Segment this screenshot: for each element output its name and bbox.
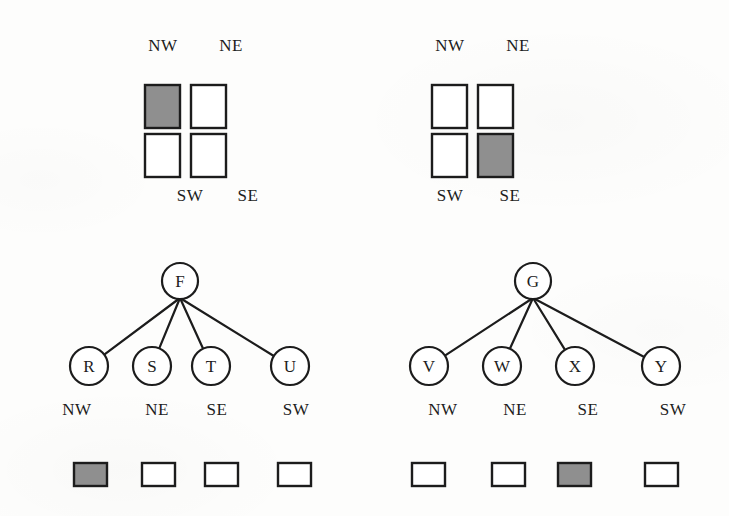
leaf-box-0-left [74, 463, 107, 486]
grid-cell-ne-right [478, 85, 513, 128]
tree-node-y: Y [642, 347, 680, 385]
tree-node-g: G [515, 263, 551, 299]
panel-left: NWNESWSEFRSTUNWNESESW [62, 36, 311, 486]
tree-node-x: X [556, 347, 594, 385]
panel-right: NWNESWSEGVWXYNWNESESW [410, 36, 687, 486]
leaf-box-0-right [412, 463, 445, 486]
leaf-box-1-left [142, 463, 175, 486]
grid-cell-ne-left [191, 85, 226, 128]
leaf-box-2-left [205, 463, 238, 486]
tree-quadrant-label-3-left: SW [283, 400, 310, 419]
grid-cell-se-left [191, 134, 226, 177]
grid-label-se-bottom-left: SE [238, 186, 259, 205]
node-label-r: R [83, 357, 95, 376]
tree-node-s: S [133, 347, 171, 385]
tree-edge-g-y [533, 298, 644, 357]
tree-quadrant-label-0-left: NW [62, 400, 92, 419]
grid-label-ne-top-left: NE [219, 36, 243, 55]
tree-quadrant-label-3-right: SW [660, 400, 687, 419]
quadrant-grid-left: NWNESWSE [145, 36, 258, 205]
tree-quadrant-label-1-left: NE [145, 400, 169, 419]
grid-label-nw-top-right: NW [435, 36, 465, 55]
node-label-g: G [527, 272, 539, 291]
tree-quadrant-label-1-right: NE [503, 400, 527, 419]
tree-node-t: T [192, 347, 230, 385]
grid-cell-se-right [478, 134, 513, 177]
leaf-box-1-right [492, 463, 525, 486]
node-label-s: S [147, 357, 156, 376]
tree-node-f: F [162, 263, 198, 299]
figure-canvas: NWNESWSEFRSTUNWNESESWNWNESWSEGVWXYNWNESE… [0, 0, 729, 516]
node-label-f: F [175, 272, 184, 291]
tree-quadrant-label-2-right: SE [578, 400, 599, 419]
node-label-v: V [423, 357, 436, 376]
grid-cell-nw-right [432, 85, 467, 128]
grid-cell-nw-left [145, 85, 180, 128]
node-label-x: X [569, 357, 581, 376]
tree-node-r: R [70, 347, 108, 385]
node-label-t: T [206, 357, 217, 376]
grid-label-ne-top-right: NE [506, 36, 530, 55]
grid-cell-sw-right [432, 134, 467, 177]
quadtree-figure: NWNESWSEFRSTUNWNESESWNWNESWSEGVWXYNWNESE… [0, 0, 729, 516]
grid-cell-sw-left [145, 134, 180, 177]
grid-label-nw-top-left: NW [148, 36, 178, 55]
quadrant-grid-right: NWNESWSE [432, 36, 530, 205]
node-label-y: Y [655, 357, 667, 376]
grid-label-sw-bottom-left: SW [177, 186, 204, 205]
grid-label-se-bottom-right: SE [500, 186, 521, 205]
leaf-box-3-left [278, 463, 311, 486]
tree-node-w: W [483, 347, 521, 385]
tree-quadrant-label-0-right: NW [428, 400, 458, 419]
tree-quadrant-label-2-left: SE [207, 400, 228, 419]
tree-node-u: U [271, 347, 309, 385]
tree-right: GVWXYNWNESESW [410, 263, 687, 486]
node-label-u: U [284, 357, 296, 376]
leaf-box-3-right [645, 463, 678, 486]
grid-label-sw-bottom-right: SW [437, 186, 464, 205]
tree-left: FRSTUNWNESESW [62, 263, 311, 486]
node-label-w: W [494, 357, 511, 376]
leaf-box-2-right [558, 463, 591, 486]
tree-node-v: V [410, 347, 448, 385]
